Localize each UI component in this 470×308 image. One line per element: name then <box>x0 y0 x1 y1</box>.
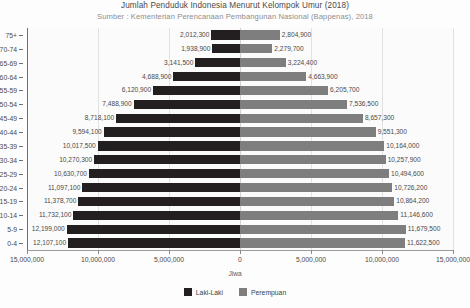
bar-male <box>104 127 240 136</box>
y-axis-tick <box>19 146 23 147</box>
x-axis-tick-label: 5,000,000 <box>296 256 326 263</box>
y-axis-labels: 75+70-7465-6960-6455-5950-5445-4940-4435… <box>0 28 23 250</box>
bar-row: 11,097,10010,726,200 <box>27 183 453 192</box>
y-axis-tick <box>19 63 23 64</box>
bar-value-female: 6,205,700 <box>330 87 359 94</box>
bar-row: 1,938,9002,279,700 <box>27 44 453 53</box>
y-axis-tick <box>19 229 23 230</box>
x-axis-tick <box>453 250 454 254</box>
x-axis-tick-label: 5,000,000 <box>154 256 184 263</box>
bar-value-male: 10,017,500 <box>63 143 96 150</box>
legend-item[interactable]: Laki-Laki <box>184 288 223 296</box>
y-axis-label-3034: 30-34 <box>0 156 17 163</box>
bar-female <box>240 141 384 150</box>
bar-value-female: 10,864,200 <box>396 198 429 205</box>
bar-value-male: 6,120,900 <box>122 87 151 94</box>
y-axis-tick <box>19 160 23 161</box>
bar-row: 11,378,70010,864,200 <box>27 197 453 206</box>
y-axis-tick <box>19 188 23 189</box>
bar-value-male: 12,199,000 <box>32 226 65 233</box>
bar-male <box>116 114 240 123</box>
x-axis-tick <box>98 250 99 254</box>
x-axis-tick <box>382 250 383 254</box>
y-axis-label-3539: 35-39 <box>0 142 17 149</box>
chart-legend: Laki-LakiPerempuan <box>0 288 470 296</box>
bar-value-male: 3,141,500 <box>164 59 193 66</box>
bar-row: 6,120,9006,205,700 <box>27 86 453 95</box>
bar-value-male: 11,732,100 <box>39 212 72 219</box>
y-axis-tick <box>19 118 23 119</box>
y-axis-label-75+: 75+ <box>5 31 17 38</box>
bar-female <box>240 225 406 234</box>
chart-title: Jumlah Penduduk Indonesia Menurut Kelomp… <box>0 1 470 10</box>
bar-value-female: 9,551,300 <box>378 129 407 136</box>
bar-value-female: 10,726,200 <box>394 184 427 191</box>
x-axis-tick <box>311 250 312 254</box>
chart-subtitle: Sumber : Kementerian Perencanaan Pembang… <box>0 12 470 21</box>
legend-swatch-icon <box>184 288 192 296</box>
bar-female <box>240 127 376 136</box>
bar-value-male: 10,270,300 <box>59 157 92 164</box>
bar-male <box>78 197 240 206</box>
bar-male <box>67 225 240 234</box>
bar-male <box>195 58 240 67</box>
bar-male <box>153 86 240 95</box>
bar-male <box>82 183 240 192</box>
bar-male <box>173 72 240 81</box>
bar-female <box>240 86 328 95</box>
legend-swatch-icon <box>239 288 247 296</box>
bar-male <box>89 169 240 178</box>
bar-value-female: 11,146,600 <box>400 212 433 219</box>
bar-value-male: 4,688,900 <box>142 73 171 80</box>
bar-male <box>98 141 240 150</box>
legend-label: Laki-Laki <box>196 289 223 296</box>
y-axis-label-4549: 45-49 <box>0 115 17 122</box>
bar-female <box>240 72 306 81</box>
bar-value-female: 7,536,500 <box>349 101 378 108</box>
gridline <box>453 28 454 250</box>
bar-value-male: 11,097,100 <box>48 184 81 191</box>
bar-value-male: 8,718,100 <box>85 115 114 122</box>
y-axis-line <box>27 28 28 250</box>
x-axis-tick-label: 15,000,000 <box>10 256 44 263</box>
y-axis-label-1014: 10-14 <box>0 212 17 219</box>
bar-value-male: 12,107,100 <box>33 240 66 247</box>
bar-row: 10,630,70010,494,600 <box>27 169 453 178</box>
y-axis-label-5559: 55-59 <box>0 87 17 94</box>
x-axis-tick-label: 10,000,000 <box>365 256 399 263</box>
bar-female <box>240 183 392 192</box>
bar-row: 7,488,9007,536,500 <box>27 100 453 109</box>
x-axis-caption: Jiwa <box>0 270 470 277</box>
bar-female <box>240 155 386 164</box>
legend-label: Perempuan <box>251 289 286 296</box>
bar-female <box>240 30 280 39</box>
bar-female <box>240 197 394 206</box>
y-axis-label-6064: 60-64 <box>0 73 17 80</box>
bar-male <box>211 30 240 39</box>
y-axis-label-5054: 50-54 <box>0 101 17 108</box>
y-axis-tick <box>19 243 23 244</box>
bar-value-female: 10,257,900 <box>388 157 421 164</box>
bar-row: 2,012,3002,804,900 <box>27 30 453 39</box>
bar-value-female: 11,679,500 <box>408 226 441 233</box>
bar-value-female: 2,804,900 <box>282 32 311 39</box>
bar-value-female: 2,279,700 <box>274 46 303 53</box>
bar-female <box>240 58 286 67</box>
bar-value-male: 9,594,100 <box>72 129 101 136</box>
y-axis-tick <box>19 104 23 105</box>
y-axis-tick <box>19 77 23 78</box>
y-axis-label-1519: 15-19 <box>0 198 17 205</box>
bar-male <box>94 155 240 164</box>
y-axis-tick <box>19 90 23 91</box>
bar-male <box>212 44 240 53</box>
y-axis-label-04: 0-4 <box>7 240 17 247</box>
y-axis-label-6569: 65-69 <box>0 59 17 66</box>
x-axis-ticks <box>27 250 453 254</box>
bar-female <box>240 169 389 178</box>
y-axis-label-4044: 40-44 <box>0 129 17 136</box>
bar-value-male: 1,938,900 <box>181 46 210 53</box>
legend-item[interactable]: Perempuan <box>239 288 286 296</box>
bar-row: 3,141,5003,224,400 <box>27 58 453 67</box>
bar-value-female: 3,224,400 <box>288 59 317 66</box>
bar-value-male: 11,378,700 <box>44 198 77 205</box>
